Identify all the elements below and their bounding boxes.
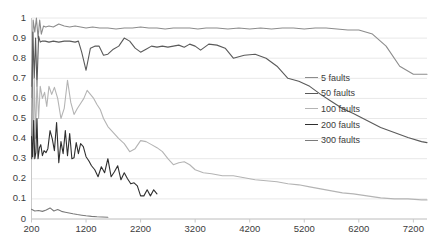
x-axis-tick-label: 200 xyxy=(12,224,52,234)
legend-label: 5 faults xyxy=(321,73,350,83)
y-axis-tick-label: 0.2 xyxy=(0,173,26,183)
legend-item[interactable]: 5 faults xyxy=(305,70,360,86)
line-chart: 00.10.20.30.40.50.60.70.80.91 2001200220… xyxy=(0,0,448,252)
series-line-100-faults xyxy=(32,78,428,200)
legend-label: 100 faults xyxy=(321,104,360,114)
series-lines xyxy=(32,18,428,217)
legend-item[interactable]: 200 faults xyxy=(305,117,360,133)
x-axis-tick-label: 5200 xyxy=(284,224,324,234)
x-axis-tick-label: 3200 xyxy=(175,224,215,234)
y-axis-tick-label: 0.4 xyxy=(0,133,26,143)
legend-line-icon xyxy=(305,124,318,125)
x-axis-tick-label: 1200 xyxy=(66,224,106,234)
series-line-200-faults xyxy=(32,119,157,196)
y-axis-tick-label: 0.3 xyxy=(0,153,26,163)
xtick-marks xyxy=(32,219,414,223)
legend-item[interactable]: 50 faults xyxy=(305,86,360,102)
plot-area xyxy=(0,0,448,252)
legend-item[interactable]: 300 faults xyxy=(305,132,360,148)
legend-line-icon xyxy=(305,93,318,94)
legend-item[interactable]: 100 faults xyxy=(305,101,360,117)
x-axis-tick-label: 7200 xyxy=(393,224,433,234)
legend-label: 200 faults xyxy=(321,120,360,130)
legend-line-icon xyxy=(305,77,318,78)
y-axis-tick-label: 0.8 xyxy=(0,53,26,63)
series-line-5-faults xyxy=(32,18,428,86)
x-axis-tick-label: 6200 xyxy=(339,224,379,234)
x-axis-tick-label: 4200 xyxy=(230,224,270,234)
y-axis-tick-label: 0.5 xyxy=(0,113,26,123)
legend-label: 300 faults xyxy=(321,135,360,145)
legend-line-icon xyxy=(305,140,318,141)
y-axis-tick-label: 0.6 xyxy=(0,93,26,103)
y-axis-tick-label: 0 xyxy=(0,214,26,224)
chart-legend[interactable]: 5 faults50 faults100 faults200 faults300… xyxy=(305,70,360,148)
y-axis-tick-label: 0.7 xyxy=(0,73,26,83)
y-axis-tick-label: 0.1 xyxy=(0,193,26,203)
series-line-300-faults xyxy=(32,208,108,217)
y-axis-tick-label: 0.9 xyxy=(0,33,26,43)
x-axis-tick-label: 2200 xyxy=(121,224,161,234)
legend-label: 50 faults xyxy=(321,88,355,98)
legend-line-icon xyxy=(305,108,318,109)
y-axis-tick-label: 1 xyxy=(0,13,26,23)
